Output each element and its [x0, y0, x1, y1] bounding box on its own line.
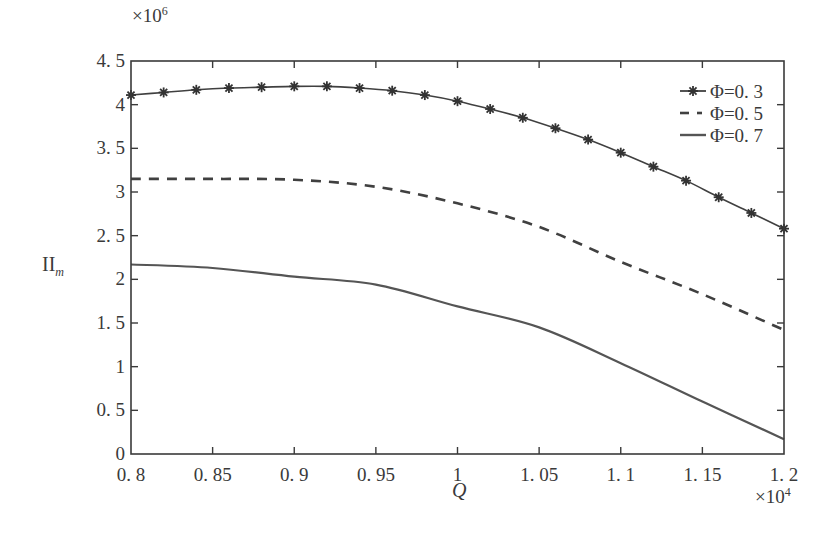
x-axis-ticks: 0. 80. 850. 90. 9511. 051. 11. 151. 2 [117, 61, 799, 485]
x-tick-label: 0. 85 [194, 464, 232, 485]
legend-label: Φ=0. 7 [710, 125, 763, 146]
y-tick-label: 2. 5 [97, 225, 126, 246]
series-solid [131, 264, 784, 439]
y-tick-label: 0. 5 [97, 399, 126, 420]
y-tick-label: 3 [116, 181, 126, 202]
y-tick-label: 3. 5 [97, 137, 126, 158]
legend-label: Φ=0. 3 [710, 81, 763, 102]
legend-item: Φ=0. 3 [680, 81, 763, 102]
x-tick-label: 0. 95 [357, 464, 395, 485]
y-tick-label: 2 [116, 268, 126, 289]
y-tick-label: 1 [116, 356, 126, 377]
x-tick-label: 1. 15 [683, 464, 721, 485]
x-tick-label: 1. 1 [607, 464, 636, 485]
y-tick-label: 0 [116, 443, 126, 464]
legend: Φ=0. 3Φ=0. 5Φ=0. 7 [680, 81, 763, 146]
x-tick-label: 1. 05 [520, 464, 558, 485]
y-tick-label: 4 [116, 94, 126, 115]
y-tick-label: 1. 5 [97, 312, 126, 333]
legend-item: Φ=0. 5 [680, 103, 763, 124]
x-axis-label: Q [452, 479, 467, 501]
x-tick-label: 1. 2 [770, 464, 799, 485]
y-axis-label: IIm [42, 253, 64, 279]
y-tick-label: 4. 5 [97, 50, 126, 71]
x-multiplier: ×104 [755, 485, 791, 507]
y-multiplier: ×106 [132, 4, 168, 26]
series-solid-star [126, 81, 789, 233]
legend-item: Φ=0. 7 [680, 125, 763, 146]
x-tick-label: 0. 9 [280, 464, 309, 485]
x-tick-label: 0. 8 [117, 464, 146, 485]
legend-label: Φ=0. 5 [710, 103, 763, 124]
line-chart: 0. 80. 850. 90. 9511. 051. 11. 151. 2 00… [0, 0, 839, 536]
